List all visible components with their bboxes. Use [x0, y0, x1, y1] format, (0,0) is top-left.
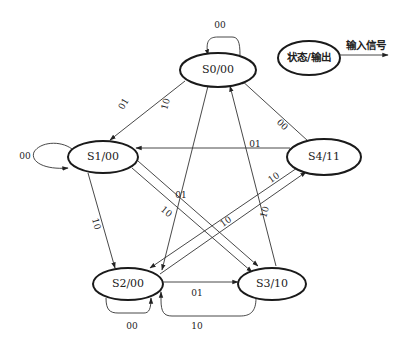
state-s1-label: S1/00	[87, 150, 119, 163]
edge-label-s0-s2: 10	[159, 97, 172, 111]
edge-s3-s2	[161, 292, 256, 316]
state-s2-label: S2/00	[112, 277, 144, 290]
edge-s0-s1	[110, 81, 185, 140]
edge-label-s2-s3: 01	[191, 288, 202, 298]
state-diagram: 00 01 10 10 00 00 01 10 01 10 10 10 01 1…	[0, 0, 404, 348]
legend-state-label: 状态/输出	[287, 51, 331, 63]
edge-s4-s0	[240, 79, 308, 141]
edge-label-s2-s4: 10	[218, 214, 233, 229]
legend-input-label: 输入信号	[346, 39, 386, 51]
state-s0: S0/00	[180, 53, 256, 87]
edge-label-s3-s0: 10	[258, 205, 271, 219]
edge-s1-s3-parallel	[132, 168, 252, 272]
state-s0-label: S0/00	[202, 63, 234, 76]
edge-label-s0-self: 00	[214, 20, 226, 30]
edge-label-s1-self: 00	[19, 151, 31, 161]
edge-label-s1-s3: 01	[175, 190, 186, 200]
edge-s1-s3	[138, 161, 258, 266]
edge-s2-s4	[160, 172, 306, 274]
edge-label-s4-s2: 10	[266, 170, 281, 185]
state-s2: S2/00	[93, 268, 163, 300]
edge-label-s0-s1: 01	[116, 96, 130, 111]
edge-s0-s2	[162, 86, 208, 270]
edge-label-s1-s2: 10	[90, 217, 103, 231]
state-s3: S3/10	[238, 268, 306, 300]
edge-s1-self	[33, 143, 72, 168]
state-s4: S4/11	[287, 139, 361, 175]
state-s3-label: S3/10	[256, 277, 288, 290]
edge-label-s3-s2: 10	[191, 321, 203, 331]
edge-label-s3-s1-parallel: 10	[159, 204, 174, 219]
state-s4-label: S4/11	[308, 150, 340, 163]
legend: 状态/输出 输入信号	[278, 39, 388, 75]
edge-label-s2-self: 00	[126, 321, 138, 331]
edge-label-s4-s0: 00	[275, 117, 290, 132]
edge-label-s4-s1: 01	[249, 139, 260, 149]
state-s1: S1/00	[68, 141, 138, 173]
